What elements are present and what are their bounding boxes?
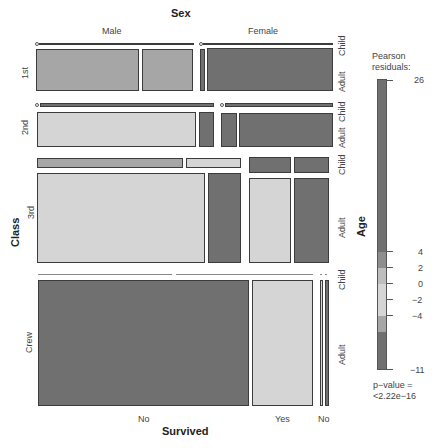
legend-tick (387, 315, 393, 316)
survived-no2-label: No (318, 414, 330, 424)
cell-1st-female-adult-yes (207, 48, 333, 91)
cell-crew-male-child-yes (176, 274, 313, 275)
age-child-label-3rd: Child (337, 154, 347, 175)
legend-tick (387, 267, 393, 268)
class-axis-title: Class (9, 218, 21, 247)
legend-tick (387, 299, 393, 300)
legend-tick (387, 283, 393, 284)
cell-3rd-female-adult-no (249, 178, 291, 263)
age-child-label-crew: Child (337, 269, 347, 290)
class-1st-label: 1st (20, 67, 30, 79)
survived-axis-title: Survived (162, 425, 208, 437)
pvalue-line1: p−value = (373, 380, 413, 390)
cell-3rd-male-child-yes (186, 158, 241, 168)
legend-tick-label-neg2: −2 (412, 295, 422, 305)
zero-cell-marker (220, 103, 224, 107)
age-child-label-2nd: Child (337, 101, 347, 122)
legend-tick-label-2: 2 (418, 263, 423, 273)
cell-crew-female-child-yes (325, 274, 327, 275)
pvalue-line2: <2.22e−16 (373, 391, 416, 401)
legend-title-line1: Pearson (372, 51, 406, 61)
cell-1st-male-child (39, 43, 194, 45)
cell-3rd-male-adult-no (37, 173, 205, 263)
cell-crew-male-adult-no (38, 280, 249, 406)
zero-cell-marker (35, 103, 39, 107)
cell-crew-female-adult-no (320, 280, 323, 406)
cell-crew-female-adult-yes (325, 280, 329, 406)
legend-tick (387, 369, 393, 370)
legend-tick-label-4: 4 (418, 247, 423, 257)
cell-1st-male-adult-no (36, 49, 139, 91)
cell-2nd-female-child (225, 103, 333, 107)
age-adult-label-1st: Adult (337, 71, 347, 92)
cell-1st-female-adult-no (200, 49, 205, 91)
legend-tick (387, 80, 393, 81)
survived-yes-label: Yes (275, 414, 290, 424)
survived-no-label: No (138, 414, 150, 424)
cell-2nd-male-adult-yes (199, 112, 214, 147)
legend-tick-label-26: 26 (414, 75, 424, 85)
age-child-label-1st: Child (337, 35, 347, 56)
age-adult-label-3rd: Adult (337, 217, 347, 238)
legend-tick-label-neg4: −4 (412, 311, 422, 321)
cell-2nd-female-adult-yes (239, 113, 333, 147)
class-crew-label: Crew (24, 332, 34, 353)
cell-3rd-female-child-no (249, 157, 291, 173)
cell-1st-male-adult-yes (142, 49, 193, 91)
cell-2nd-male-adult-no (37, 112, 196, 147)
sex-female-label: Female (248, 26, 278, 36)
age-adult-label-crew: Adult (337, 344, 347, 365)
cell-crew-male-child-no (38, 274, 172, 275)
cell-3rd-male-child-no (37, 158, 183, 168)
cell-crew-male-adult-yes (252, 280, 313, 406)
age-adult-label-2nd: Adult (337, 127, 347, 148)
legend-tick (387, 251, 393, 252)
sex-axis-title: Sex (171, 7, 191, 19)
legend-tick-label-0: 0 (418, 279, 423, 289)
cell-3rd-female-child-yes (294, 157, 329, 173)
cell-2nd-female-adult-no (221, 113, 237, 147)
class-2nd-label: 2nd (20, 120, 30, 135)
cell-2nd-male-child (40, 103, 214, 107)
age-axis-title: Age (355, 216, 367, 237)
cell-3rd-female-adult-yes (294, 178, 329, 263)
class-3rd-label: 3rd (26, 206, 36, 219)
sex-male-label: Male (102, 26, 122, 36)
cell-crew-female-child-no (320, 274, 322, 275)
legend-title-line2: residuals: (372, 62, 411, 72)
legend-tick-label-neg11: −11 (410, 365, 425, 375)
cell-3rd-male-adult-yes (208, 173, 241, 263)
legend-color-bar (377, 79, 387, 370)
cell-1st-female-child (203, 43, 333, 45)
